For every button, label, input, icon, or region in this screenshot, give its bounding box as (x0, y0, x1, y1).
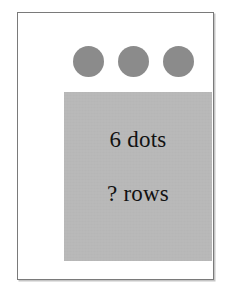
dot-1 (73, 46, 104, 77)
dot-2 (118, 46, 149, 77)
dots-count-label: 6 dots (64, 128, 212, 151)
figure-canvas: 6 dots ? rows (0, 0, 230, 292)
dot-3 (163, 46, 194, 77)
outer-frame: 6 dots ? rows (17, 12, 214, 280)
rows-question-label: ? rows (64, 182, 212, 205)
paper-grain-overlay (64, 92, 212, 261)
grey-panel: 6 dots ? rows (64, 92, 212, 261)
dot-row (73, 46, 194, 78)
